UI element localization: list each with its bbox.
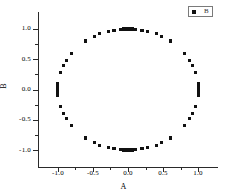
data-point	[160, 35, 163, 38]
data-point	[65, 117, 68, 120]
x-axis-tick-label: 0.0	[113, 170, 143, 177]
x-axis-minor-tick	[146, 167, 147, 170]
data-point	[194, 71, 197, 74]
data-point	[169, 39, 172, 42]
data-point	[56, 94, 59, 97]
x-axis-tick-label: 1.0	[183, 170, 213, 177]
data-point	[107, 146, 110, 149]
y-axis-tick-label: 0.0	[9, 86, 31, 93]
data-point	[126, 148, 129, 151]
x-axis-tick-label: 0.5	[148, 170, 178, 177]
data-point	[122, 27, 125, 30]
data-point	[133, 28, 136, 31]
x-axis-title: A	[0, 183, 247, 191]
chart-legend[interactable]: B	[188, 6, 213, 17]
x-axis-minor-tick	[181, 167, 182, 170]
data-point	[84, 39, 87, 42]
y-axis-tick-label: 0.5	[9, 56, 31, 63]
x-axis-minor-tick	[75, 167, 76, 170]
legend-series-label: B	[204, 8, 209, 15]
data-point	[98, 32, 101, 35]
data-point	[140, 29, 143, 32]
data-point	[70, 124, 73, 127]
data-point	[107, 30, 110, 33]
data-point	[62, 112, 65, 115]
x-axis-tick-label: -1.0	[43, 170, 73, 177]
data-point	[146, 30, 149, 33]
data-point	[183, 124, 186, 127]
data-point	[155, 32, 158, 35]
data-point	[119, 28, 122, 31]
plot-data-area	[38, 12, 218, 167]
data-point	[112, 29, 115, 32]
data-point	[191, 64, 194, 67]
data-point	[191, 112, 194, 115]
y-axis-tick-label: -0.5	[9, 116, 31, 123]
data-point	[112, 147, 115, 150]
data-point	[155, 144, 158, 147]
y-axis-tick-label: -1.0	[9, 147, 31, 154]
data-point	[98, 144, 101, 147]
data-point	[140, 147, 143, 150]
data-point	[194, 105, 197, 108]
legend-marker-swatch	[192, 10, 196, 14]
y-axis-tick-label: 1.0	[9, 25, 31, 32]
data-point	[59, 71, 62, 74]
data-point	[93, 141, 96, 144]
data-point	[188, 117, 191, 120]
data-point	[133, 148, 136, 151]
data-point	[70, 52, 73, 55]
x-axis-tick-label: -0.5	[78, 170, 108, 177]
data-point	[84, 136, 87, 139]
x-axis-minor-tick	[110, 167, 111, 170]
data-point	[183, 52, 186, 55]
y-axis-title: B	[0, 83, 8, 89]
data-point	[65, 59, 68, 62]
data-point	[197, 94, 200, 97]
data-point	[93, 35, 96, 38]
data-point	[59, 105, 62, 108]
data-point	[146, 146, 149, 149]
scatter-chart-figure: 1.00.50.0-0.5-1.0-1.0-0.50.00.51.0 B A B	[0, 0, 247, 195]
data-point	[188, 59, 191, 62]
data-point	[169, 136, 172, 139]
data-point	[62, 64, 65, 67]
data-point	[160, 141, 163, 144]
